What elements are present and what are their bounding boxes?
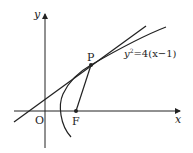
- point-f-label: F: [72, 115, 80, 128]
- curve-equation-label: y2=4(x−1): [123, 47, 177, 59]
- point-f: [74, 109, 78, 113]
- point-p-label: P: [87, 51, 95, 64]
- tangent-line: [14, 26, 146, 122]
- x-axis-label: x: [175, 113, 182, 126]
- diagram-canvas: y x O P F y2=4(x−1): [0, 0, 193, 153]
- y-axis-label: y: [33, 8, 41, 21]
- origin-label: O: [35, 114, 44, 127]
